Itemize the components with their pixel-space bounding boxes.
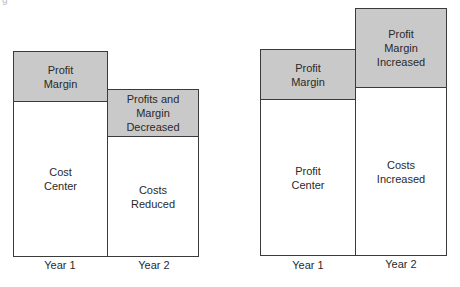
x-label-year-2: Year 2 (109, 259, 199, 271)
cropped-text-fragment: g (2, 0, 8, 5)
y1-cost-label: Cost Center (13, 101, 108, 257)
x-label-year-1: Year 1 (263, 259, 353, 271)
x-label-year-2: Year 2 (356, 258, 446, 270)
y2-profit-margin-label: Profits and Margin Decreased (107, 89, 199, 137)
y1-cost-label: Profit Center (260, 99, 356, 256)
y2-cost-label: Costs Increased (355, 87, 447, 256)
y2-profit-margin-label: Profit Margin Increased (355, 8, 447, 88)
x-label-year-1: Year 1 (15, 259, 105, 271)
y1-profit-margin-label: Profit Margin (13, 51, 108, 102)
y2-cost-label: Costs Reduced (107, 136, 199, 257)
y1-profit-margin-label: Profit Margin (260, 49, 356, 100)
